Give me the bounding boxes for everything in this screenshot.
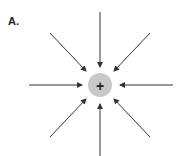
arrow-bottom-left-icon bbox=[50, 99, 86, 137]
field-lines-diagram: + bbox=[0, 0, 180, 156]
arrow-top-left-icon bbox=[50, 33, 86, 71]
plus-sign-icon: + bbox=[96, 78, 104, 94]
arrow-top-right-icon bbox=[114, 33, 150, 71]
arrow-bottom-right-icon bbox=[114, 99, 150, 137]
electric-field-figure: A. + bbox=[0, 0, 180, 156]
